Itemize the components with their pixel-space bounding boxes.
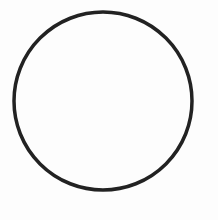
diagram-canvas bbox=[0, 0, 218, 220]
circle-outline bbox=[14, 12, 192, 190]
circle-drawing bbox=[0, 0, 218, 220]
